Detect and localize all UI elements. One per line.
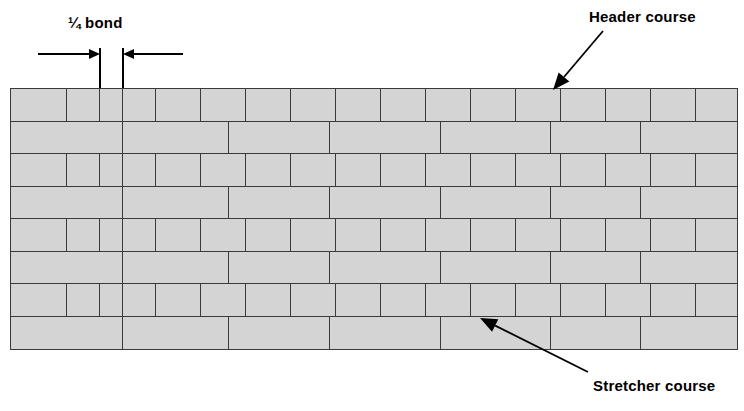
brick xyxy=(329,121,442,155)
brick xyxy=(440,186,552,220)
brick xyxy=(122,121,230,155)
brick-course-stretcher xyxy=(10,121,736,154)
brick xyxy=(329,316,442,350)
brick xyxy=(640,186,738,220)
brick xyxy=(515,283,562,317)
brick xyxy=(99,153,124,187)
dimension-arrow-right-shaft xyxy=(133,53,183,55)
brick xyxy=(650,283,697,317)
brick xyxy=(425,218,472,252)
brick xyxy=(290,88,337,122)
brick xyxy=(10,186,124,220)
brick-wall xyxy=(10,88,736,348)
brick xyxy=(66,218,101,252)
brick xyxy=(10,251,124,285)
brick xyxy=(10,121,124,155)
brick xyxy=(200,88,247,122)
brick xyxy=(440,251,552,285)
brick xyxy=(515,88,562,122)
brick xyxy=(640,316,738,350)
brick xyxy=(228,251,331,285)
dimension-arrowhead-right xyxy=(123,49,134,59)
brick xyxy=(470,153,517,187)
brick xyxy=(515,153,562,187)
brick xyxy=(605,283,652,317)
brick xyxy=(550,121,642,155)
extension-line-left xyxy=(99,48,101,90)
brick xyxy=(335,283,382,317)
brick-course-stretcher xyxy=(10,251,736,284)
brick xyxy=(99,88,124,122)
brick xyxy=(329,186,442,220)
brick xyxy=(440,316,552,350)
brick xyxy=(245,283,292,317)
brick-course-stretcher xyxy=(10,186,736,219)
brick xyxy=(650,218,697,252)
brick xyxy=(10,283,68,317)
brick xyxy=(605,88,652,122)
brick-course-header xyxy=(10,283,736,316)
brick xyxy=(695,283,738,317)
brick xyxy=(66,88,101,122)
brick xyxy=(470,218,517,252)
brick-course-header xyxy=(10,218,736,251)
brick xyxy=(245,88,292,122)
brick xyxy=(550,316,642,350)
brick xyxy=(155,283,202,317)
brick xyxy=(66,283,101,317)
brick xyxy=(695,88,738,122)
brick xyxy=(380,218,427,252)
brick xyxy=(560,153,607,187)
brick xyxy=(122,88,157,122)
brick xyxy=(290,283,337,317)
brick xyxy=(245,153,292,187)
brick xyxy=(695,153,738,187)
brick xyxy=(425,153,472,187)
brick xyxy=(650,153,697,187)
brick xyxy=(10,316,124,350)
brick-course-header xyxy=(10,153,736,186)
brick-course-stretcher xyxy=(10,316,736,349)
brick xyxy=(10,153,68,187)
brick xyxy=(122,186,230,220)
brick xyxy=(200,218,247,252)
brick xyxy=(335,88,382,122)
brick xyxy=(560,88,607,122)
brick xyxy=(99,283,124,317)
brick xyxy=(155,88,202,122)
brick xyxy=(470,88,517,122)
brick xyxy=(290,218,337,252)
brick xyxy=(425,88,472,122)
brick xyxy=(515,218,562,252)
brick xyxy=(550,251,642,285)
header-course-leader-shaft xyxy=(564,31,603,77)
quarter-bond-label: ¼ bond xyxy=(68,14,123,31)
header-course-label: Header course xyxy=(589,8,696,25)
brick xyxy=(380,88,427,122)
brick xyxy=(605,153,652,187)
brick xyxy=(640,251,738,285)
brick xyxy=(200,153,247,187)
brick xyxy=(650,88,697,122)
brick xyxy=(550,186,642,220)
brick xyxy=(605,218,652,252)
brick xyxy=(10,218,68,252)
brick xyxy=(200,283,247,317)
brick xyxy=(228,316,331,350)
brick xyxy=(245,218,292,252)
brick xyxy=(122,153,157,187)
brick xyxy=(99,218,124,252)
brick xyxy=(329,251,442,285)
brick-bond-diagram: ¼ bond Header course Stretcher course xyxy=(0,0,744,411)
brick xyxy=(425,283,472,317)
brick xyxy=(695,218,738,252)
brick xyxy=(155,218,202,252)
brick xyxy=(380,283,427,317)
brick xyxy=(640,121,738,155)
brick xyxy=(122,218,157,252)
brick xyxy=(470,283,517,317)
brick xyxy=(335,153,382,187)
brick xyxy=(380,153,427,187)
brick xyxy=(560,218,607,252)
brick xyxy=(335,218,382,252)
